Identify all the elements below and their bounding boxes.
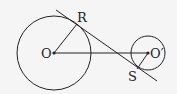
label-O: O	[41, 46, 52, 61]
radius-OR	[54, 24, 77, 53]
label-S: S	[128, 69, 137, 84]
common-tangent-line	[56, 10, 157, 81]
label-R: R	[77, 10, 88, 25]
radius-O-prime-S	[137, 53, 148, 69]
geometry-figure: O O′ R S	[0, 0, 177, 94]
diagram-canvas: O O′ R S	[0, 0, 177, 94]
label-O-prime: O′	[150, 46, 164, 61]
center-dot-O	[52, 51, 55, 54]
